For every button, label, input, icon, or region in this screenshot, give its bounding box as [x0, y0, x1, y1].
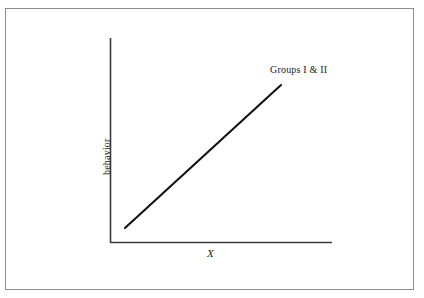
x-axis-title: X: [207, 247, 214, 259]
series-annotation-label: Groups I & II: [270, 64, 327, 75]
y-axis-title: behavior: [101, 138, 112, 175]
data-line-groups-i-and-ii: [125, 85, 281, 228]
figure-page: behavior X Groups I & II: [0, 0, 424, 298]
